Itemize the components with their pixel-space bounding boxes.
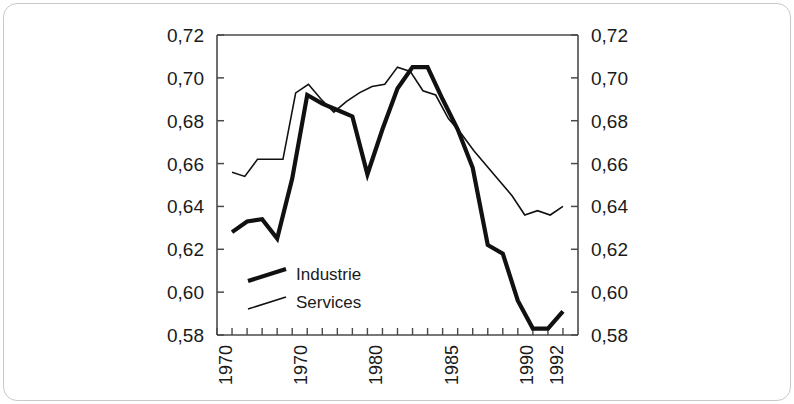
legend-swatch-industrie: [248, 269, 286, 281]
plot-frame: [217, 35, 578, 335]
legend-swatch-services: [248, 297, 286, 309]
x-tick-label: 1992: [547, 345, 567, 385]
legend-label-services: Services: [296, 293, 361, 312]
y-tick-label-right: 0,68: [591, 111, 628, 132]
x-tick-label: 1970: [291, 345, 311, 385]
y-tick-label-left: 0,58: [167, 325, 204, 346]
x-axis: 197019701980198519901992: [216, 328, 567, 385]
y-tick-label-left: 0,64: [167, 196, 204, 217]
chart-svg: 0,580,580,600,600,620,620,640,640,660,66…: [0, 0, 794, 404]
y-tick-label-left: 0,70: [167, 68, 204, 89]
x-tick-label: 1970: [216, 345, 236, 385]
line-chart: 0,580,580,600,600,620,620,640,640,660,66…: [0, 0, 794, 404]
y-tick-label-left: 0,66: [167, 154, 204, 175]
y-tick-label-right: 0,72: [591, 25, 628, 46]
legend: IndustrieServices: [248, 265, 361, 312]
y-tick-label-left: 0,68: [167, 111, 204, 132]
y-tick-label-left: 0,72: [167, 25, 204, 46]
x-tick-label: 1980: [366, 345, 386, 385]
y-tick-label-left: 0,60: [167, 282, 204, 303]
y-tick-label-right: 0,70: [591, 68, 628, 89]
y-tick-label-right: 0,58: [591, 325, 628, 346]
x-tick-label: 1985: [442, 345, 462, 385]
y-tick-label-right: 0,64: [591, 196, 628, 217]
x-tick-label: 1990: [517, 345, 537, 385]
legend-label-industrie: Industrie: [296, 265, 361, 284]
y-axis: 0,580,580,600,600,620,620,640,640,660,66…: [167, 25, 628, 346]
y-tick-label-left: 0,62: [167, 239, 204, 260]
series-group: [232, 67, 563, 328]
y-tick-label-right: 0,60: [591, 282, 628, 303]
y-tick-label-right: 0,62: [591, 239, 628, 260]
y-tick-label-right: 0,66: [591, 154, 628, 175]
chart-figure: 0,580,580,600,600,620,620,640,640,660,66…: [0, 0, 794, 404]
